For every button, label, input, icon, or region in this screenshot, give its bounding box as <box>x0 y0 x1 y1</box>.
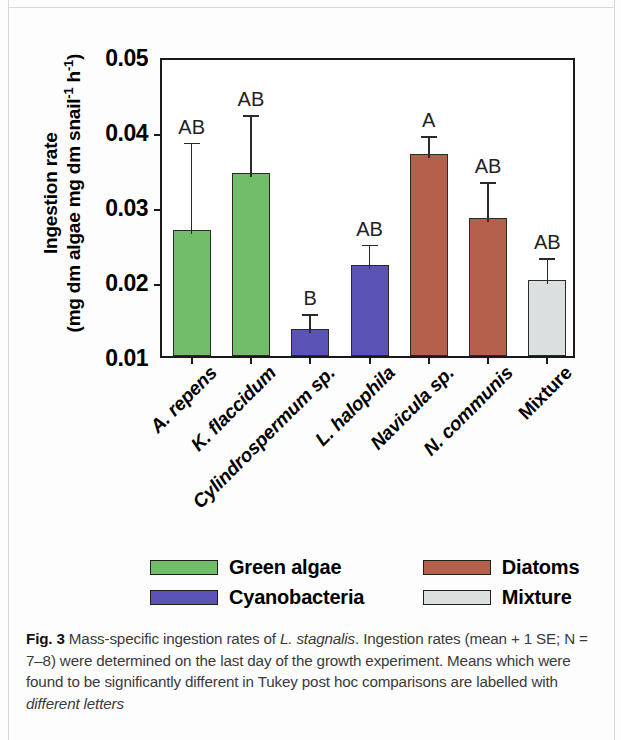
y-tick-mark <box>154 209 162 211</box>
y-tick-label: 0.01 <box>72 345 148 372</box>
bar-k-flaccidum <box>232 173 270 356</box>
legend-item-mixture: Mixture <box>423 586 580 609</box>
plot-axes: ABABBABAABAB <box>160 58 575 358</box>
y-tick-mark <box>154 284 162 286</box>
y-tick-label: 0.04 <box>72 120 148 147</box>
error-bar <box>191 143 193 235</box>
error-bar-cap <box>184 143 200 145</box>
legend-label: Green algae <box>229 556 341 579</box>
bar-l-halophila <box>351 265 389 356</box>
legend-swatch <box>150 560 218 575</box>
caption-emphasis: different letters <box>26 695 124 712</box>
legend-swatch <box>423 590 491 605</box>
bar-a-repens <box>173 230 211 356</box>
significance-letter: AB <box>534 231 561 254</box>
legend-label: Diatoms <box>502 556 580 579</box>
error-bar <box>250 115 252 177</box>
caption-species-name: L. stagnalis <box>280 630 355 647</box>
error-bar-cap <box>539 258 555 260</box>
x-axis-tick-labels: A. repensK. flaccidumCylindrospermum sp.… <box>160 362 575 512</box>
y-tick-label: 0.03 <box>72 195 148 222</box>
legend-item-green-algae: Green algae <box>150 556 365 579</box>
y-axis-title-line1: Ingestion rate <box>40 132 61 254</box>
bar-n-communis <box>469 218 507 356</box>
error-bar <box>428 136 430 159</box>
bar-chart: Ingestion rate (mg dm algae mg dm snail-… <box>0 0 621 545</box>
error-bar-cap <box>302 314 318 316</box>
significance-letter: AB <box>238 88 265 111</box>
y-tick-label: 0.02 <box>72 270 148 297</box>
significance-letter: AB <box>475 155 502 178</box>
y-tick-label: 0.05 <box>72 45 148 72</box>
legend-label: Cyanobacteria <box>229 586 364 609</box>
significance-letter: B <box>304 287 317 310</box>
y-axis-tick-labels: 0.050.040.030.020.01 <box>68 0 148 545</box>
x-axis-label-mixture: Mixture <box>515 362 577 424</box>
error-bar <box>547 258 549 284</box>
significance-letter: AB <box>178 116 205 139</box>
figure-root: Ingestion rate (mg dm algae mg dm snail-… <box>0 0 621 740</box>
legend-label: Mixture <box>502 586 572 609</box>
error-bar-cap <box>421 136 437 138</box>
error-bar-cap <box>243 115 259 117</box>
legend-item-diatoms: Diatoms <box>423 556 580 579</box>
error-bar <box>369 245 371 270</box>
bar-navicula-sp <box>410 154 448 356</box>
significance-letter: AB <box>356 218 383 241</box>
error-bar-cap <box>362 245 378 247</box>
figure-caption: Fig. 3 Mass-specific ingestion rates of … <box>26 628 604 714</box>
legend-item-cyanobacteria: Cyanobacteria <box>150 586 365 609</box>
figure-number: Fig. 3 <box>26 630 65 647</box>
error-bar <box>309 314 311 333</box>
bar-mixture <box>528 280 566 356</box>
error-bar-cap <box>480 182 496 184</box>
significance-letter: A <box>422 109 435 132</box>
y-tick-mark <box>154 134 162 136</box>
error-bar <box>487 182 489 222</box>
legend-swatch <box>150 590 218 605</box>
caption-text-1: Mass-specific ingestion rates of <box>65 630 280 647</box>
chart-legend: Green algaeDiatomsCyanobacteriaMixture <box>150 556 580 609</box>
bar-cylindrospermum-sp <box>291 329 329 356</box>
legend-swatch <box>423 560 491 575</box>
